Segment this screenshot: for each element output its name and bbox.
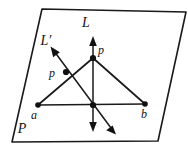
point-a: [35, 102, 41, 108]
point-interior-p-prime: [63, 69, 69, 75]
line-L-prime-arrowhead-down: [106, 126, 116, 135]
label-point-apex-p: p: [97, 43, 104, 57]
label-line-L-prime: L′: [40, 33, 53, 48]
label-point-b: b: [141, 107, 147, 121]
segment-apex-to-b: [93, 58, 145, 104]
plane-outline: [12, 9, 186, 142]
line-L-prime-arrowhead-up: [51, 47, 60, 58]
label-point-interior-p: p: [48, 66, 55, 80]
label-point-a: a: [31, 108, 37, 122]
figure-canvas: L L′ p p a b P: [0, 0, 188, 149]
label-plane-P: P: [17, 121, 27, 136]
line-L-prime: [56, 53, 112, 128]
line-L-arrowhead-down: [89, 122, 97, 132]
line-L-arrowhead-up: [89, 36, 97, 46]
segment-apex-to-a: [38, 58, 93, 105]
point-base-center: [90, 102, 96, 108]
geometry-figure: L L′ p p a b P: [0, 0, 188, 149]
label-line-L: L: [81, 15, 90, 30]
point-b: [142, 101, 148, 107]
point-apex-p: [90, 55, 96, 61]
